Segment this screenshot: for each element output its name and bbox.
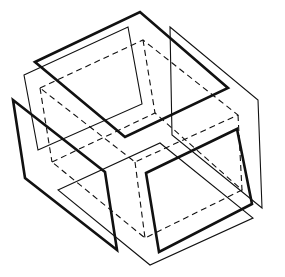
plane-front-thick <box>146 129 252 252</box>
offset-planes <box>13 12 262 265</box>
cube-exploded-diagram <box>0 0 285 277</box>
cube-edge <box>143 40 155 113</box>
dashed-cube <box>40 40 242 238</box>
plane-bottom-thin <box>58 143 253 265</box>
cube-edge <box>135 162 145 238</box>
cube-vertical-edges <box>40 40 242 238</box>
plane-top-thin <box>24 27 142 150</box>
plane-top-thick <box>35 12 228 137</box>
